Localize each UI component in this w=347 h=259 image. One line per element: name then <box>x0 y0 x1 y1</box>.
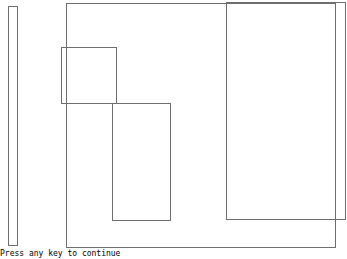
right-tall-rect <box>226 2 346 220</box>
continue-prompt: Press any key to continue <box>0 249 120 259</box>
middle-box-rect <box>112 103 171 221</box>
left-bar-rect <box>8 6 18 246</box>
small-square-rect <box>61 47 117 104</box>
